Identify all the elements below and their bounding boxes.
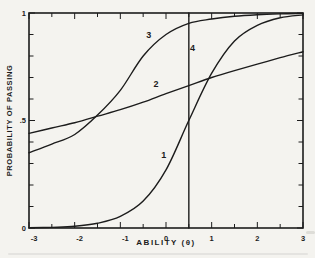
curve-item-1 — [29, 15, 303, 228]
y-tick-label: .5 — [20, 116, 26, 125]
curve-label-item-1: 1 — [161, 150, 166, 160]
icc-figure: -3-2-101230.511234 ABILITY (θ) PROBABILI… — [0, 0, 315, 258]
x-axis-title: ABILITY (θ) — [0, 238, 315, 247]
y-tick-label: 1 — [22, 9, 26, 18]
plot-frame — [29, 13, 303, 228]
scan-artifact-streak — [8, 253, 308, 255]
y-tick-label: 0 — [22, 224, 26, 233]
curve-label-item-2: 2 — [153, 79, 158, 89]
y-axis-title: PROBABILITY OF PASSING — [5, 36, 14, 206]
curve-label-item-3: 3 — [146, 30, 151, 40]
curve-item-2 — [29, 52, 303, 134]
icc-plot-canvas: -3-2-101230.511234 — [0, 0, 315, 258]
scan-artifact-smudge — [306, 231, 315, 234]
curve-item-3 — [29, 13, 303, 152]
curve-label-item-4: 4 — [190, 43, 195, 53]
